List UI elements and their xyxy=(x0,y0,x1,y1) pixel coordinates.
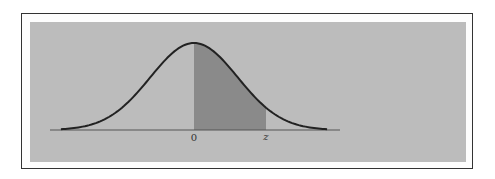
tick-label-zero: 0 xyxy=(191,132,197,143)
normal-curve-plot xyxy=(0,0,495,179)
tick-label-z: z xyxy=(263,131,268,142)
shaded-area-0-to-z xyxy=(194,43,266,130)
